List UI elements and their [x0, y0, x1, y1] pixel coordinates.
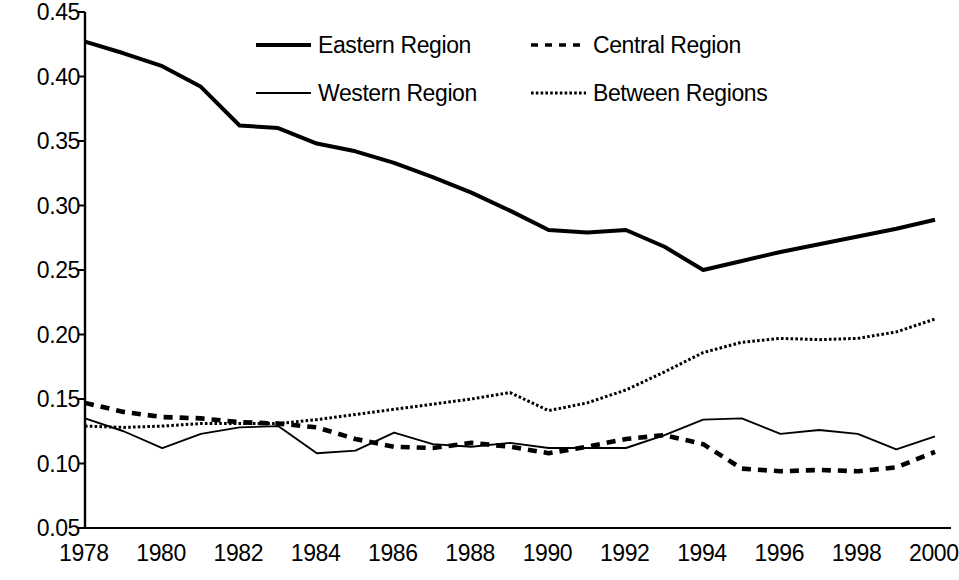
- x-axis-tick-label: 1986: [368, 540, 418, 566]
- legend-item-between-regions[interactable]: Between Regions: [530, 78, 767, 108]
- y-axis-tick-label: 0.40: [6, 65, 80, 89]
- x-axis-label-group: 1978198019821984198619881990199219941996…: [0, 540, 953, 580]
- x-axis-tick-label: 1980: [136, 540, 186, 566]
- legend-label-between-regions: Between Regions: [593, 80, 767, 107]
- x-axis-tick-label: 1994: [677, 540, 727, 566]
- series-line-western-region: [85, 418, 935, 453]
- legend-label-eastern-region: Eastern Region: [318, 32, 471, 59]
- legend-item-eastern-region[interactable]: Eastern Region: [255, 30, 471, 60]
- x-axis-tick-label: 1984: [291, 540, 341, 566]
- y-axis-tick-label: 0.15: [6, 387, 80, 411]
- y-axis-tick-label: 0.20: [6, 323, 80, 347]
- legend-swatch-solid-thick-icon: [255, 38, 312, 52]
- series-line-between-regions: [85, 319, 935, 427]
- chart-legend: Eastern Region Central Region Western Re…: [255, 30, 775, 108]
- legend-item-western-region[interactable]: Western Region: [255, 78, 477, 108]
- legend-label-western-region: Western Region: [318, 80, 477, 107]
- y-axis-tick-label: 0.30: [6, 194, 80, 218]
- y-axis-tick-label: 0.05: [6, 516, 80, 540]
- legend-label-central-region: Central Region: [593, 32, 741, 59]
- x-axis-tick-label: 1996: [754, 540, 804, 566]
- y-axis-tick-label: 0.45: [6, 0, 80, 24]
- legend-item-central-region[interactable]: Central Region: [530, 30, 741, 60]
- x-axis-tick-label: 1978: [59, 540, 109, 566]
- x-axis-tick-label: 1998: [832, 540, 882, 566]
- y-axis-tick-label: 0.10: [6, 452, 80, 476]
- x-axis-tick-label: 1990: [523, 540, 573, 566]
- y-axis-label-group: 0.450.400.350.300.250.200.150.100.05: [0, 0, 80, 580]
- series-line-central-region: [85, 403, 935, 471]
- x-axis-tick-label: 2000: [909, 540, 959, 566]
- y-axis-tick-label: 0.25: [6, 258, 80, 282]
- legend-swatch-dotted-icon: [530, 86, 587, 100]
- x-axis-tick-label: 1982: [214, 540, 264, 566]
- legend-swatch-dashed-icon: [530, 38, 587, 52]
- y-axis-tick-label: 0.35: [6, 129, 80, 153]
- legend-swatch-solid-thin-icon: [255, 86, 312, 100]
- x-axis-tick-label: 1992: [600, 540, 650, 566]
- x-axis-tick-label: 1988: [445, 540, 495, 566]
